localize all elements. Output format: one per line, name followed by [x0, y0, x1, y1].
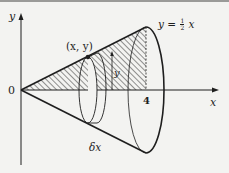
x-tick-4: 4: [143, 96, 150, 106]
y-axis-label: y: [9, 11, 15, 22]
cone-bottom-edge: [21, 90, 146, 153]
x-axis-label: x: [210, 97, 216, 108]
origin-label: 0: [8, 85, 15, 96]
point-label: (x, y): [66, 41, 93, 52]
fraction-denominator: 2: [180, 25, 184, 31]
point-marker: [86, 55, 91, 60]
curve-equation-rhs: x: [185, 18, 194, 30]
curve-equation: y = 12 x: [158, 18, 195, 31]
y-axis-arrow-icon: [19, 13, 24, 20]
thickness-label: δx: [89, 142, 101, 153]
curve-equation-lhs: y =: [158, 18, 179, 30]
fraction-half: 12: [180, 18, 184, 31]
radius-label: y: [114, 68, 120, 78]
x-axis-arrow-icon: [212, 88, 219, 93]
